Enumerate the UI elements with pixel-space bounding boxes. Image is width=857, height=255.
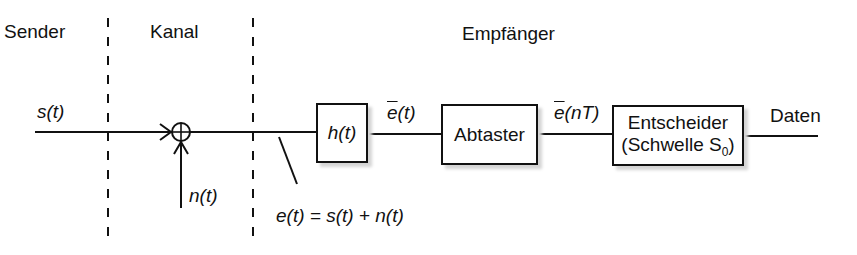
signal-sampled: e(nT) — [554, 103, 599, 122]
block-sampler: Abtaster — [441, 104, 538, 165]
signal-output: Daten — [770, 106, 821, 125]
block-filter: h(t) — [316, 103, 368, 163]
signal-filtered: e(t) — [387, 103, 416, 122]
label-receiver: Empfänger — [462, 24, 555, 43]
signal-input: s(t) — [37, 102, 64, 121]
annotation-pointer — [279, 137, 297, 184]
decider-threshold: (Schwelle S0) — [621, 134, 734, 160]
decider-title: Entscheider — [628, 112, 728, 134]
signal-noise: n(t) — [189, 186, 218, 205]
label-sender: Sender — [4, 22, 65, 41]
block-decider: Entscheider (Schwelle S0) — [612, 105, 744, 166]
signal-received: e(t) = s(t) + n(t) — [276, 206, 404, 225]
label-channel: Kanal — [150, 22, 199, 41]
